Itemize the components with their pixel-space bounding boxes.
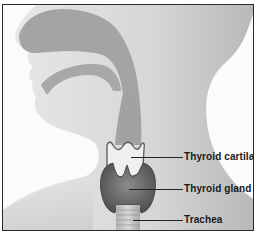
label-trachea: Trachea bbox=[184, 214, 223, 225]
head-neck-illustration bbox=[3, 5, 254, 231]
label-thyroid-cartilage: Thyroid cartilage bbox=[184, 151, 254, 162]
leader-line-thyroid-cartilage bbox=[131, 157, 183, 158]
leader-line-trachea bbox=[133, 220, 183, 221]
diagram-frame: Thyroid cartilage Thyroid gland Trachea bbox=[2, 4, 254, 231]
shoulder-shading bbox=[3, 177, 93, 231]
label-thyroid-gland: Thyroid gland bbox=[184, 183, 251, 194]
leader-line-thyroid-gland bbox=[129, 189, 183, 190]
trachea-shape bbox=[116, 205, 140, 231]
